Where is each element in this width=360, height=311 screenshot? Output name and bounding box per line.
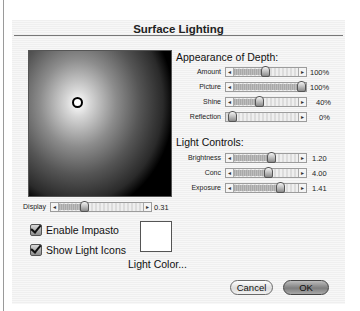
show-light-icons-checkbox[interactable]: Show Light Icons <box>30 243 126 257</box>
cancel-button[interactable]: Cancel <box>230 280 273 295</box>
slider-thumb[interactable] <box>297 81 306 92</box>
title-separator <box>14 35 343 36</box>
lighting-preview[interactable] <box>28 50 172 197</box>
left-arrow-icon[interactable]: ◂ <box>226 68 234 76</box>
slider-fill <box>234 69 264 75</box>
brightness-slider[interactable]: ◂ ▸ <box>225 153 307 163</box>
brightness-label: Brightness <box>172 154 221 161</box>
shine-value: 40% <box>316 98 331 107</box>
shine-label: Shine <box>172 98 221 105</box>
display-slider[interactable]: ◂ ▸ <box>50 202 152 212</box>
surface-lighting-dialog: Surface Lighting Display ◂ ▸ 0.31 Appear… <box>12 20 345 304</box>
exposure-label: Exposure <box>172 184 221 191</box>
enable-impasto-checkbox[interactable]: Enable Impasto <box>30 223 119 237</box>
reflection-value: 0% <box>319 113 330 122</box>
light-source-icon[interactable] <box>72 97 83 108</box>
amount-slider[interactable]: ◂ ▸ <box>225 67 307 77</box>
appearance-of-depth-heading: Appearance of Depth: <box>176 51 278 63</box>
conc-slider-row: Conc ◂ ▸ 4.00 <box>172 168 345 179</box>
window-edge <box>3 0 4 311</box>
right-arrow-icon[interactable]: ▸ <box>298 184 306 192</box>
brightness-value: 1.20 <box>312 154 327 163</box>
right-arrow-icon[interactable]: ▸ <box>298 169 306 177</box>
display-label: Display <box>12 203 46 210</box>
amount-value: 100% <box>310 68 329 77</box>
shine-slider[interactable]: ◂ ▸ <box>225 97 307 107</box>
right-arrow-icon[interactable]: ▸ <box>298 98 306 106</box>
light-controls-heading: Light Controls: <box>176 136 244 148</box>
amount-label: Amount <box>172 68 221 75</box>
right-arrow-icon[interactable]: ▸ <box>298 68 306 76</box>
reflection-slider-row: Reflection ▸ 0% <box>172 112 345 123</box>
display-slider-row: Display ◂ ▸ 0.31 <box>12 202 187 213</box>
left-arrow-icon[interactable]: ◂ <box>226 83 234 91</box>
right-arrow-icon[interactable]: ▸ <box>298 113 306 121</box>
reflection-label: Reflection <box>172 113 221 120</box>
light-color-label[interactable]: Light Color... <box>128 258 187 270</box>
picture-value: 100% <box>310 83 329 92</box>
exposure-slider-row: Exposure ◂ ▸ 1.41 <box>172 183 345 194</box>
right-arrow-icon[interactable]: ▸ <box>298 154 306 162</box>
exposure-slider[interactable]: ◂ ▸ <box>225 183 307 193</box>
left-arrow-icon[interactable]: ◂ <box>226 169 234 177</box>
left-arrow-icon[interactable]: ◂ <box>226 154 234 162</box>
right-arrow-icon[interactable]: ▸ <box>143 203 151 211</box>
brightness-slider-row: Brightness ◂ ▸ 1.20 <box>172 153 345 164</box>
show-light-icons-label: Show Light Icons <box>46 244 126 256</box>
slider-thumb[interactable] <box>255 96 264 107</box>
left-arrow-icon[interactable]: ◂ <box>51 203 59 211</box>
light-color-swatch[interactable] <box>140 221 172 252</box>
shine-slider-row: Shine ◂ ▸ 40% <box>172 97 345 108</box>
left-arrow-icon[interactable]: ◂ <box>226 184 234 192</box>
slider-thumb[interactable] <box>264 167 273 178</box>
slider-thumb[interactable] <box>228 111 237 122</box>
conc-slider[interactable]: ◂ ▸ <box>225 168 307 178</box>
conc-label: Conc <box>172 169 221 176</box>
picture-slider-row: Picture ◂ 100% <box>172 82 345 93</box>
ok-button[interactable]: OK <box>283 280 329 295</box>
checkmark-icon[interactable] <box>30 224 42 236</box>
reflection-slider[interactable]: ▸ <box>225 112 307 122</box>
slider-thumb[interactable] <box>80 201 89 212</box>
left-arrow-icon[interactable]: ◂ <box>226 98 234 106</box>
enable-impasto-label: Enable Impasto <box>46 224 119 236</box>
checkmark-icon[interactable] <box>30 244 42 256</box>
exposure-value: 1.41 <box>312 184 327 193</box>
picture-slider[interactable]: ◂ <box>225 82 307 92</box>
slider-fill <box>234 84 298 90</box>
conc-value: 4.00 <box>312 169 327 178</box>
amount-slider-row: Amount ◂ ▸ 100% <box>172 67 345 78</box>
slider-thumb[interactable] <box>267 152 276 163</box>
dialog-title: Surface Lighting <box>12 23 345 35</box>
slider-thumb[interactable] <box>261 66 270 77</box>
slider-fill <box>234 155 270 161</box>
display-value: 0.31 <box>154 203 169 212</box>
slider-thumb[interactable] <box>276 182 285 193</box>
slider-fill <box>234 185 279 191</box>
picture-label: Picture <box>172 83 221 90</box>
slider-fill <box>234 170 267 176</box>
